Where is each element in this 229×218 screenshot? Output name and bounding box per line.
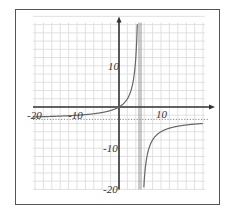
tick-labels: -20 -10 10 10 -10 -20 [27, 60, 168, 195]
function-curve [33, 24, 203, 187]
x-tick-label-neg20: -20 [27, 109, 42, 121]
x-tick-label-10: 10 [156, 108, 168, 120]
x-tick-label-neg10: -10 [68, 109, 83, 121]
y-tick-label-neg20: -20 [103, 183, 118, 195]
function-graph: -20 -10 10 10 -10 -20 [0, 0, 229, 218]
y-tick-label-10: 10 [108, 60, 120, 72]
y-tick-label-neg10: -10 [103, 142, 118, 154]
